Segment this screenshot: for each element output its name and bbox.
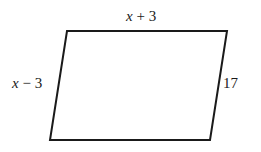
right-side-label: 17 [223, 75, 239, 91]
parallelogram-shape [50, 31, 227, 140]
parallelogram-diagram: x + 3 x − 3 17 [0, 0, 261, 152]
left-side-label: x − 3 [11, 75, 42, 91]
top-side-label: x + 3 [125, 8, 156, 24]
